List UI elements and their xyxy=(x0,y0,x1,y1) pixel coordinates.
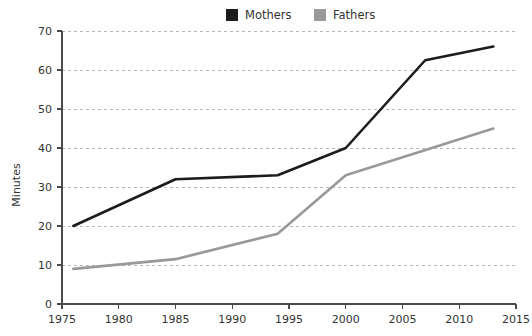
y-tick-label: 0 xyxy=(45,298,52,311)
series-line-fathers xyxy=(73,129,493,269)
y-tick-label: 70 xyxy=(38,25,52,38)
gridlines xyxy=(62,31,516,265)
legend: Mothers Fathers xyxy=(226,8,375,22)
x-tick-label: 1975 xyxy=(48,313,76,326)
y-tick-label: 30 xyxy=(38,181,52,194)
x-tick-label: 2005 xyxy=(389,313,417,326)
series-line-mothers xyxy=(73,47,493,226)
x-tick-label: 1980 xyxy=(105,313,133,326)
legend-swatch-mothers xyxy=(226,9,238,21)
x-axis-ticks: 197519801985199019952000200520102015 xyxy=(48,304,530,326)
y-tick-label: 40 xyxy=(38,142,52,155)
y-tick-label: 60 xyxy=(38,64,52,77)
series-lines xyxy=(73,47,493,269)
legend-label-mothers: Mothers xyxy=(245,8,292,22)
line-chart: Mothers Fathers 010203040506070 19751980… xyxy=(0,0,532,336)
legend-label-fathers: Fathers xyxy=(333,8,375,22)
x-tick-label: 1990 xyxy=(218,313,246,326)
y-axis-title: Minutes xyxy=(10,163,23,207)
y-tick-label: 50 xyxy=(38,103,52,116)
x-tick-label: 2000 xyxy=(332,313,360,326)
y-axis-ticks: 010203040506070 xyxy=(38,25,62,311)
y-tick-label: 10 xyxy=(38,259,52,272)
chart-container: Mothers Fathers 010203040506070 19751980… xyxy=(0,0,532,336)
legend-swatch-fathers xyxy=(314,9,326,21)
x-tick-label: 2015 xyxy=(502,313,530,326)
x-tick-label: 2010 xyxy=(445,313,473,326)
x-tick-label: 1985 xyxy=(162,313,190,326)
y-tick-label: 20 xyxy=(38,220,52,233)
x-tick-label: 1995 xyxy=(275,313,303,326)
